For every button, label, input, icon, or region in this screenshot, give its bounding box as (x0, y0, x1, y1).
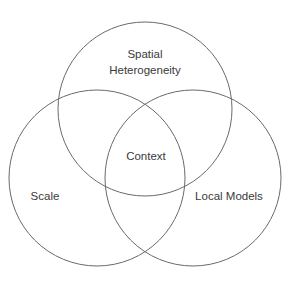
label-local-models: Local Models (195, 190, 263, 202)
circle-local-models (105, 90, 281, 266)
circle-scale (9, 90, 185, 266)
label-spatial: Spatial (127, 48, 162, 60)
label-heterogeneity: Heterogeneity (109, 64, 181, 76)
venn-diagram: Spatial Heterogeneity Context Scale Loca… (0, 0, 292, 282)
label-context: Context (126, 150, 166, 162)
label-scale: Scale (31, 190, 60, 202)
